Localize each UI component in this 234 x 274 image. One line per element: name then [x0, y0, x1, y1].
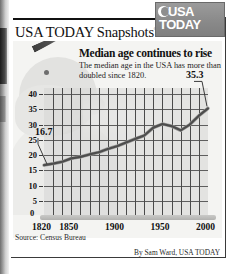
usa-today-logo: USA TODAY	[155, 2, 225, 37]
snapshot-infographic: USA TODAY Snapshots® USA TODAY Median ag…	[0, 0, 234, 274]
value-label-start: 16.7	[35, 127, 53, 137]
median-age-series	[44, 108, 208, 165]
callout-leader-start	[38, 138, 47, 164]
logo-today-text: TODAY	[159, 18, 201, 32]
source-note: Source: Census Bureau	[15, 233, 86, 242]
credit-note: By Sam Ward, USA TODAY	[134, 248, 220, 257]
series-shadow	[44, 108, 208, 165]
callout-leader-end	[194, 81, 207, 106]
chart-panel: Median age continues to rise The median …	[13, 41, 222, 238]
snapshots-title-text: USA TODAY Snapshots	[15, 24, 154, 40]
page-edge-shadow-lower	[0, 96, 6, 122]
page-edge-shadow-upper	[0, 28, 7, 84]
value-label-end: 35.3	[186, 70, 204, 80]
